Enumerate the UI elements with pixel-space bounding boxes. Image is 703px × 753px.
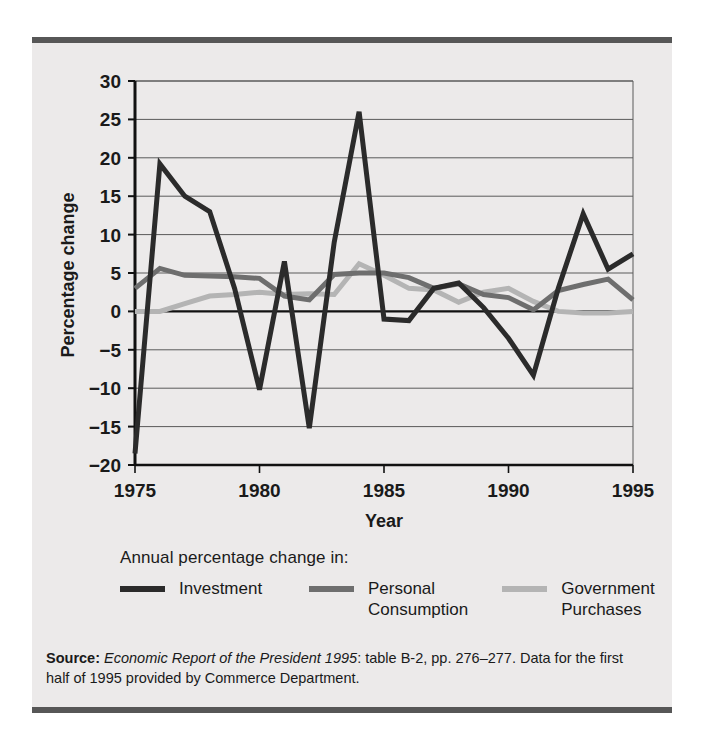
legend-swatch-government-purchases [502, 586, 547, 592]
legend-item-government-purchases[interactable]: Government Purchases [502, 578, 657, 620]
figure-container: 302520151050−5−10−15−20 1975198019851990… [0, 0, 703, 753]
legend-title: Annual percentage change in: [120, 548, 660, 568]
chart-legend: Annual percentage change in: Investment … [120, 548, 660, 620]
legend-swatch-personal-consumption [309, 586, 354, 592]
legend-item-investment[interactable]: Investment [120, 578, 275, 599]
bottom-rule [32, 707, 672, 713]
legend-entries: Investment Personal Consumption Governme… [120, 578, 660, 620]
top-rule [32, 37, 672, 43]
source-title: Economic Report of the President 1995 [104, 650, 357, 666]
legend-swatch-investment [120, 586, 165, 592]
legend-label-investment: Investment [179, 578, 275, 599]
legend-label-government-purchases: Government Purchases [561, 578, 657, 620]
legend-label-personal-consumption: Personal Consumption [368, 578, 468, 620]
legend-item-personal-consumption[interactable]: Personal Consumption [309, 578, 468, 620]
source-label: Source: [46, 650, 100, 666]
source-note: Source: Economic Report of the President… [46, 648, 646, 688]
